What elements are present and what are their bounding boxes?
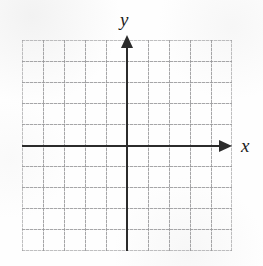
x-axis-label: x	[241, 136, 249, 155]
coordinate-grid-figure: x y	[0, 0, 263, 266]
y-axis-line	[126, 45, 128, 251]
x-axis-arrow-icon	[219, 140, 232, 152]
x-axis-line	[22, 145, 227, 147]
y-axis-label: y	[120, 10, 128, 29]
y-axis-arrow-icon	[121, 35, 133, 48]
